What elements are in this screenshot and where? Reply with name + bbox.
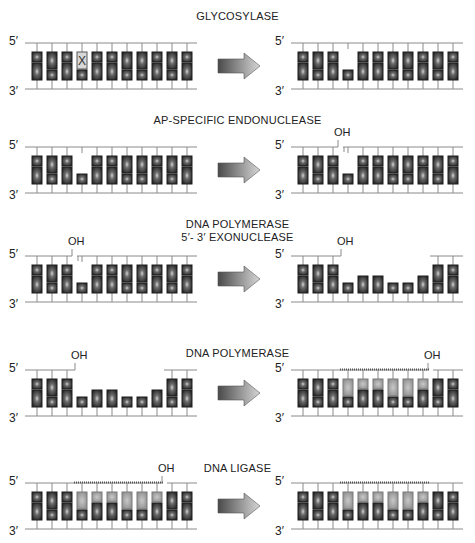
top-base — [167, 492, 177, 509]
step2-after-oh-label: OH — [337, 236, 354, 247]
bottom-base — [358, 167, 368, 184]
step0-before-five-prime-label: 5′ — [9, 35, 18, 47]
bottom-base — [137, 510, 147, 520]
top-base — [358, 492, 368, 502]
bottom-base — [152, 390, 162, 407]
bottom-base — [418, 503, 428, 520]
top-base — [328, 379, 338, 389]
bottom-base — [152, 276, 162, 293]
top-base — [418, 156, 428, 166]
bottom-base — [388, 174, 398, 184]
top-base — [298, 492, 308, 502]
top-base — [373, 379, 383, 389]
top-base — [32, 156, 42, 166]
step2-before-oh-label: OH — [68, 236, 85, 247]
bottom-base — [152, 503, 162, 520]
top-base — [358, 379, 368, 389]
step1-before-five-prime-label: 5′ — [9, 139, 18, 151]
top-base — [433, 156, 443, 173]
top-base — [182, 265, 192, 275]
bottom-base — [418, 167, 428, 184]
bottom-base — [388, 397, 398, 407]
bottom-base — [47, 174, 57, 184]
bottom-base — [358, 390, 368, 407]
top-base — [32, 492, 42, 502]
step2-before-three-prime-label: 3′ — [9, 298, 18, 310]
bottom-base — [418, 276, 428, 293]
bottom-base — [343, 283, 353, 293]
top-base — [358, 52, 368, 62]
top-base — [343, 492, 353, 509]
step2-after-three-prime-label: 3′ — [275, 298, 284, 310]
top-base — [373, 156, 383, 166]
bottom-base — [77, 70, 87, 80]
bottom-base — [298, 276, 308, 293]
bottom-base — [388, 70, 398, 80]
bottom-base — [137, 397, 147, 407]
top-base — [47, 265, 57, 282]
bottom-base — [373, 390, 383, 407]
step0-after-five-prime-label: 5′ — [275, 35, 284, 47]
top-base — [167, 265, 177, 282]
top-base — [328, 156, 338, 166]
bottom-base — [137, 174, 147, 184]
bottom-base — [92, 276, 102, 293]
bottom-base — [107, 167, 117, 184]
top-base — [448, 379, 458, 389]
bottom-base — [107, 390, 117, 407]
bottom-base — [343, 397, 353, 407]
step4-after-three-prime-label: 3′ — [275, 525, 284, 537]
top-base — [47, 52, 57, 69]
bottom-base — [403, 283, 413, 293]
bottom-base — [373, 276, 383, 293]
bottom-base — [448, 276, 458, 293]
bottom-base — [32, 390, 42, 407]
bottom-base — [62, 390, 72, 407]
bottom-base — [328, 167, 338, 184]
top-base — [313, 379, 323, 396]
bottom-base — [328, 276, 338, 293]
step3-after-oh-label: OH — [424, 350, 441, 361]
step3-process-arrow — [218, 380, 260, 406]
top-base — [122, 52, 132, 69]
step4-before-oh-label: OH — [158, 463, 175, 474]
bottom-base — [137, 70, 147, 80]
bottom-base — [298, 503, 308, 520]
step3-before-five-prime-label: 5′ — [9, 362, 18, 374]
top-base — [388, 379, 398, 396]
top-base — [92, 52, 102, 62]
step4-process-arrow — [218, 493, 260, 519]
step1-after-oh-label: OH — [334, 127, 351, 138]
top-base — [448, 265, 458, 275]
top-base — [137, 52, 147, 69]
step3-after-three-prime-label: 3′ — [275, 412, 284, 424]
bottom-base — [107, 63, 117, 80]
step2-process-arrow — [218, 266, 260, 292]
top-base — [62, 156, 72, 166]
top-base — [47, 156, 57, 173]
bottom-base — [62, 503, 72, 520]
bottom-base — [122, 283, 132, 293]
bottom-base — [167, 397, 177, 407]
bottom-base — [358, 276, 368, 293]
step0-before-three-prime-label: 3′ — [9, 85, 18, 97]
step2-after-five-prime-label: 5′ — [275, 248, 284, 260]
top-base — [32, 52, 42, 62]
step3-before-three-prime-label: 3′ — [9, 412, 18, 424]
top-base — [62, 265, 72, 275]
bottom-base — [433, 510, 443, 520]
top-base — [328, 492, 338, 502]
top-base — [107, 492, 117, 502]
bottom-base — [373, 63, 383, 80]
step1-after-three-prime-label: 3′ — [275, 189, 284, 201]
bottom-base — [403, 510, 413, 520]
top-base — [47, 379, 57, 396]
top-base — [32, 265, 42, 275]
top-base — [448, 52, 458, 62]
top-base — [313, 156, 323, 173]
top-base — [388, 492, 398, 509]
bottom-base — [182, 167, 192, 184]
bottom-base — [328, 503, 338, 520]
bottom-base — [152, 63, 162, 80]
bottom-base — [182, 390, 192, 407]
